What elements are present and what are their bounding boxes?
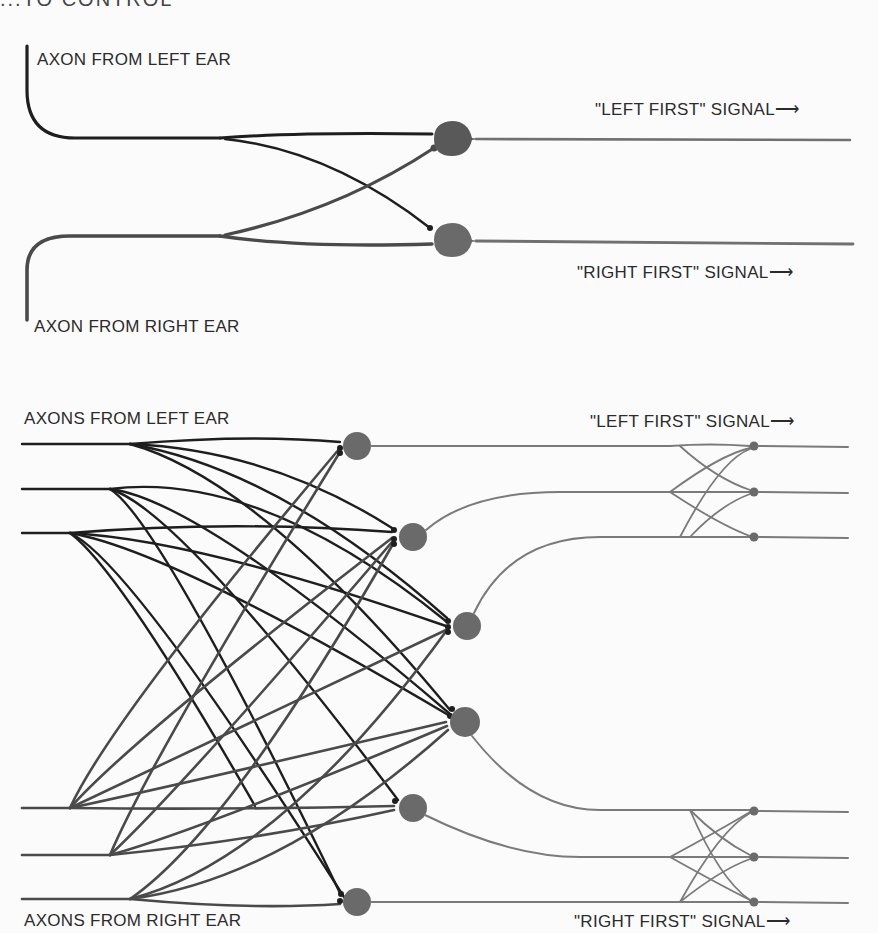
label-axons-left-ear: AXONS FROM LEFT EAR: [24, 410, 230, 427]
label-right-first-signal-bottom: "RIGHT FIRST" SIGNAL⟶: [574, 913, 790, 930]
synapse-terminal: [427, 225, 433, 231]
label-axon-left-ear: AXON FROM LEFT EAR: [37, 51, 231, 68]
left-axon-to-lower-neuron: [225, 139, 430, 228]
right-ear-axon: [27, 236, 220, 320]
left-axon-to-upper-neuron: [220, 134, 432, 139]
neuron-4: [450, 707, 480, 737]
neuron-left-first: [434, 121, 478, 156]
neuron-3: [453, 612, 481, 640]
label-left-first-signal-bottom: "LEFT FIRST" SIGNAL⟶: [590, 413, 794, 430]
neuron-2: [399, 523, 427, 551]
circuit-diagram: [0, 0, 878, 933]
neural-circuit-figure: ...TO CONTROL: [0, 0, 878, 933]
final-outputs: [758, 446, 848, 903]
label-text: "LEFT FIRST" SIGNAL: [590, 412, 770, 431]
label-left-first-signal: "LEFT FIRST" SIGNAL⟶: [595, 101, 799, 118]
label-right-first-signal: "RIGHT FIRST" SIGNAL⟶: [577, 264, 793, 281]
neuron-5: [399, 794, 427, 822]
arrow-right-icon: ⟶: [770, 412, 794, 431]
bottom-panel: [22, 432, 848, 916]
left-ear-axons: [22, 438, 450, 897]
first-layer-neurons: [343, 432, 481, 916]
right-first-output-axon: [476, 241, 853, 244]
label-text: "RIGHT FIRST" SIGNAL: [574, 912, 766, 931]
arrow-right-icon: ⟶: [775, 100, 799, 119]
right-axon-to-upper-neuron: [225, 148, 434, 235]
arrow-right-icon: ⟶: [769, 263, 793, 282]
lower-crossing-cluster: [670, 810, 750, 902]
left-first-output-axon: [476, 139, 850, 140]
label-text: "RIGHT FIRST" SIGNAL: [577, 263, 769, 282]
label-axon-right-ear: AXON FROM RIGHT EAR: [34, 318, 240, 335]
upper-crossing-cluster: [670, 445, 750, 538]
label-text: "LEFT FIRST" SIGNAL: [595, 100, 775, 119]
right-axon-to-lower-neuron: [220, 236, 432, 245]
neuron-right-first: [434, 223, 478, 257]
second-layer-neurons: [750, 442, 759, 907]
neuron-1: [343, 432, 371, 460]
arrow-right-icon: ⟶: [766, 912, 790, 931]
label-axons-right-ear: AXONS FROM RIGHT EAR: [24, 912, 241, 929]
neuron-6: [343, 888, 371, 916]
